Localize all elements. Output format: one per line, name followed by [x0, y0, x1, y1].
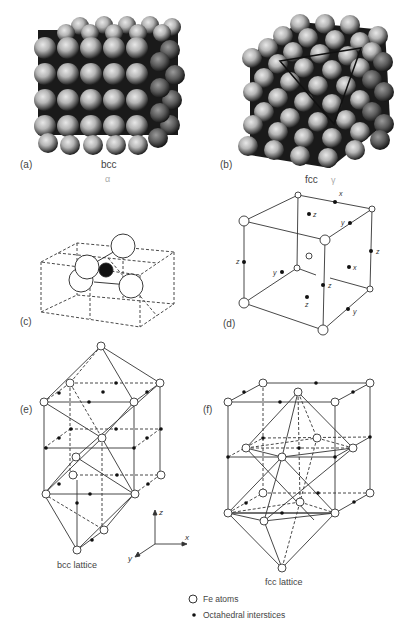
panel-a-phase: α	[105, 174, 110, 184]
fe-atom	[111, 234, 135, 258]
svg-text:x: x	[338, 190, 343, 197]
legend-label-fe-atoms: Fe atoms	[203, 594, 238, 604]
panel-b-label: (b)	[220, 159, 232, 170]
interstitial-atom	[99, 263, 113, 277]
fcc-sphere-model	[238, 14, 394, 168]
panel-b-phase: γ	[331, 175, 336, 185]
svg-text:z: z	[304, 301, 309, 308]
panel-a-structure: bcc	[101, 159, 117, 170]
axes-triad	[135, 510, 187, 557]
panel-c-label: (c)	[20, 316, 32, 327]
panel-a-label: (a)	[20, 159, 32, 170]
interstice-legend-icon	[192, 613, 196, 617]
legend: Fe atoms Octahedral interstices	[189, 594, 285, 620]
octahedral-site-atoms	[69, 234, 143, 298]
panel-f-label: (f)	[203, 404, 212, 415]
fcc-lattice-diagram	[228, 383, 370, 568]
svg-text:z: z	[312, 211, 317, 218]
fe-atom-legend-icon	[189, 595, 197, 603]
svg-text:x: x	[352, 264, 357, 271]
y-axis-label: y	[127, 554, 133, 563]
z-axis-label: z	[158, 508, 163, 517]
panel-e-label: (e)	[20, 404, 32, 415]
svg-text:z: z	[327, 282, 332, 289]
x-axis-label: x	[184, 533, 190, 542]
legend-label-octahedral: Octahedral interstices	[203, 610, 285, 620]
fcc-lattice-caption: fcc lattice	[265, 577, 303, 587]
fe-atom	[119, 274, 143, 298]
bcc-lattice-interstices	[44, 381, 163, 542]
svg-text:z: z	[235, 258, 240, 265]
figure-canvas: (a) bcc α (b) fcc γ	[0, 0, 399, 627]
bcc-lattice-caption: bcc lattice	[57, 560, 97, 570]
bcc-lattice-diagram	[44, 346, 160, 550]
panel-b-structure: fcc	[305, 174, 318, 185]
svg-text:z: z	[375, 248, 380, 255]
panel-d-label: (d)	[223, 318, 235, 329]
bcc-sphere-model	[34, 16, 185, 155]
svg-text:y: y	[272, 269, 277, 277]
svg-text:y: y	[340, 219, 345, 227]
svg-text:y: y	[352, 308, 357, 316]
fe-atom	[75, 255, 99, 279]
